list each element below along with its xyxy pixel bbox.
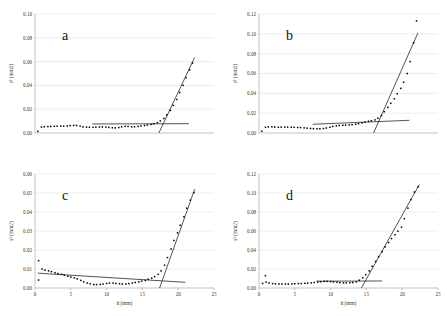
data-point bbox=[306, 127, 308, 129]
y-tick-label: 0.04 bbox=[247, 247, 256, 253]
data-point bbox=[79, 125, 81, 127]
data-point bbox=[272, 283, 274, 285]
y-tick-label: 0.06 bbox=[247, 70, 256, 76]
data-point bbox=[326, 281, 328, 283]
data-point bbox=[38, 279, 40, 281]
data-point bbox=[332, 126, 334, 128]
data-point bbox=[151, 277, 153, 279]
data-point bbox=[323, 281, 325, 283]
data-point bbox=[313, 282, 315, 284]
baseline-fit-line bbox=[313, 120, 410, 124]
data-point bbox=[342, 125, 344, 127]
data-point bbox=[157, 274, 159, 276]
y-tick-label: 0.10 bbox=[23, 11, 32, 17]
data-point bbox=[115, 283, 117, 285]
data-point bbox=[407, 207, 409, 209]
data-point bbox=[160, 120, 162, 122]
data-point bbox=[336, 125, 338, 127]
data-point bbox=[397, 230, 399, 232]
data-point bbox=[44, 269, 46, 271]
data-point bbox=[413, 42, 415, 44]
data-point bbox=[319, 128, 321, 130]
data-point bbox=[153, 123, 155, 125]
data-point bbox=[83, 281, 85, 283]
panel-a-plot: 0.000.020.040.060.080.10s² (mm2)a bbox=[0, 0, 223, 158]
y-axis-title: s² (mm2) bbox=[8, 221, 15, 241]
data-point bbox=[118, 127, 120, 129]
data-point bbox=[173, 240, 175, 242]
data-point bbox=[406, 73, 408, 75]
data-point bbox=[185, 77, 187, 79]
data-point bbox=[361, 122, 363, 124]
data-point bbox=[108, 127, 110, 129]
data-point bbox=[67, 275, 69, 277]
data-point bbox=[274, 126, 276, 128]
data-point bbox=[394, 98, 396, 100]
data-point bbox=[93, 284, 95, 286]
data-point bbox=[189, 69, 191, 71]
y-tick-label: 0.05 bbox=[23, 190, 32, 196]
data-point bbox=[121, 126, 123, 128]
data-point bbox=[96, 284, 98, 286]
data-point bbox=[355, 124, 357, 126]
data-point bbox=[371, 266, 373, 268]
data-point bbox=[180, 225, 182, 227]
data-point bbox=[265, 281, 267, 283]
data-point bbox=[323, 128, 325, 130]
data-point bbox=[381, 115, 383, 117]
data-point bbox=[192, 62, 194, 64]
y-tick-label: 0.00 bbox=[23, 285, 32, 291]
y-tick-label: 0.08 bbox=[247, 209, 256, 215]
y-axis-title: s² (mm2) bbox=[8, 64, 15, 84]
data-point bbox=[410, 199, 412, 201]
data-point bbox=[167, 257, 169, 259]
y-tick-label: 0.10 bbox=[247, 31, 256, 37]
data-point bbox=[76, 278, 78, 280]
data-point bbox=[127, 126, 129, 128]
data-point bbox=[329, 126, 331, 128]
y-tick-label: 0.06 bbox=[23, 171, 32, 177]
y-tick-label: 0.08 bbox=[23, 35, 32, 41]
rising-fit-line bbox=[159, 57, 195, 133]
panel-d: 0.000.020.040.060.080.100.120510152025h … bbox=[224, 158, 447, 316]
data-point bbox=[320, 281, 322, 283]
y-tick-label: 0.12 bbox=[247, 171, 256, 177]
data-point bbox=[391, 238, 393, 240]
data-point bbox=[303, 127, 305, 128]
data-point bbox=[190, 199, 192, 201]
data-point bbox=[300, 127, 302, 129]
y-tick-label: 0.04 bbox=[23, 209, 32, 215]
four-panel-figure: 0.000.020.040.060.080.10s² (mm2)a 0.000.… bbox=[0, 0, 447, 316]
data-point bbox=[182, 85, 184, 87]
data-point bbox=[66, 125, 68, 127]
data-point bbox=[291, 283, 293, 285]
panel-c-plot: 0.000.010.020.030.040.050.060510152025h … bbox=[0, 158, 223, 316]
data-point bbox=[317, 281, 319, 283]
y-tick-label: 0.03 bbox=[23, 228, 32, 234]
data-point bbox=[99, 126, 101, 128]
y-tick-label: 0.02 bbox=[23, 247, 32, 253]
data-point bbox=[304, 283, 306, 285]
x-tick-label: 0 bbox=[34, 291, 37, 297]
data-point bbox=[294, 283, 296, 285]
data-point bbox=[404, 218, 406, 220]
data-point bbox=[388, 242, 390, 244]
data-point bbox=[150, 124, 152, 126]
x-tick-label: 10 bbox=[328, 291, 334, 297]
data-point bbox=[128, 283, 130, 285]
data-point bbox=[61, 274, 63, 276]
data-point bbox=[147, 124, 149, 126]
data-point bbox=[268, 126, 270, 128]
data-point bbox=[114, 127, 116, 128]
data-point bbox=[172, 105, 174, 107]
data-point bbox=[345, 124, 347, 126]
data-point bbox=[311, 282, 313, 284]
y-tick-label: 0.04 bbox=[247, 90, 256, 96]
data-point bbox=[271, 126, 273, 128]
data-point bbox=[400, 88, 402, 90]
data-point bbox=[297, 127, 299, 128]
data-point bbox=[99, 284, 101, 286]
data-point bbox=[371, 120, 373, 122]
rising-fit-line bbox=[160, 189, 195, 288]
y-tick-label: 0.01 bbox=[23, 266, 32, 272]
